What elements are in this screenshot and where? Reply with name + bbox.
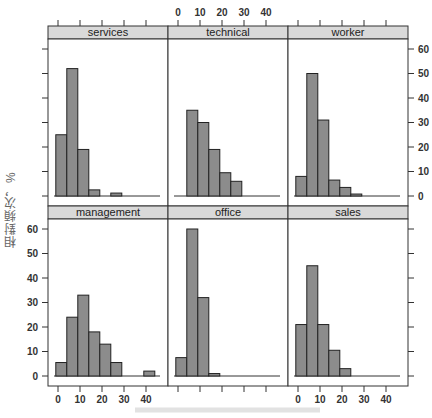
histogram-bar: [187, 229, 198, 376]
histogram-bar: [231, 181, 242, 196]
y-tick-label: 40: [27, 273, 39, 284]
y-tick-label: 50: [418, 68, 430, 79]
y-tick-label: 40: [418, 93, 430, 104]
x-tick-label: 20: [96, 394, 108, 405]
x-tick-label: 30: [358, 394, 370, 405]
x-tick-label: 10: [194, 7, 206, 18]
strip-label: technical: [206, 26, 249, 38]
lattice-histogram-chart: servicestechnicalworkermanagementoffices…: [0, 0, 432, 418]
x-tick-label: 0: [175, 7, 181, 18]
y-tick-label: 20: [27, 322, 39, 333]
histogram-bar: [307, 266, 318, 376]
y-tick-label: 20: [418, 142, 430, 153]
x-tick-label: 20: [336, 394, 348, 405]
histogram-bar: [296, 325, 307, 376]
x-tick-label: 40: [140, 394, 152, 405]
y-tick-label: 10: [27, 346, 39, 357]
x-tick-label: 30: [118, 394, 130, 405]
x-tick-label: 10: [74, 394, 86, 405]
strip-label: office: [215, 206, 241, 218]
histogram-bar: [296, 176, 307, 196]
y-tick-label: 50: [27, 248, 39, 259]
histogram-bar: [318, 120, 329, 196]
histogram-bar: [329, 350, 340, 376]
x-tick-label: 40: [260, 7, 272, 18]
histogram-bar: [89, 190, 100, 196]
histogram-bar: [56, 363, 67, 376]
histogram-bar: [340, 369, 351, 376]
histogram-bar: [198, 123, 209, 197]
histogram-bar: [220, 173, 231, 196]
y-tick-label: 60: [418, 44, 430, 55]
histogram-bar: [89, 332, 100, 376]
histogram-bar: [307, 74, 318, 197]
histogram-bar: [176, 358, 187, 376]
panel-office: office: [168, 206, 288, 386]
histogram-bar: [351, 194, 362, 196]
histogram-bar: [78, 295, 89, 376]
histogram-bar: [209, 374, 220, 376]
panel-services: services: [48, 26, 168, 206]
panel-worker: worker: [288, 26, 408, 206]
strip-label: management: [76, 206, 140, 218]
y-tick-label: 0: [32, 371, 38, 382]
y-tick-label: 30: [27, 297, 39, 308]
histogram-bar: [67, 317, 78, 376]
y-tick-label: 10: [418, 166, 430, 177]
panel-sales: sales: [288, 206, 408, 386]
y-tick-label: 30: [418, 117, 430, 128]
histogram-bar: [340, 187, 351, 196]
histogram-bar: [198, 298, 209, 376]
histogram-bar: [209, 149, 220, 196]
histogram-bar: [100, 344, 111, 376]
strip-label: services: [88, 26, 129, 38]
y-tick-label: 60: [27, 224, 39, 235]
histogram-bar: [318, 325, 329, 376]
histogram-bar: [67, 69, 78, 196]
x-tick-label: 0: [295, 394, 301, 405]
histogram-bar: [187, 110, 198, 196]
histogram-bar: [111, 363, 122, 376]
x-tick-label: 10: [314, 394, 326, 405]
x-tick-label: 0: [55, 394, 61, 405]
panel-technical: technical: [168, 26, 288, 206]
strip-label: worker: [330, 26, 364, 38]
strip-label: sales: [335, 206, 361, 218]
y-tick-label: 0: [418, 191, 424, 202]
x-tick-label: 40: [380, 394, 392, 405]
histogram-bar: [144, 371, 155, 376]
y-axis-label: 相對頻次，%: [2, 150, 22, 270]
x-tick-label: 20: [216, 7, 228, 18]
panel-management: management: [48, 206, 168, 386]
x-tick-label: 30: [238, 7, 250, 18]
histogram-bar: [329, 180, 340, 196]
histogram-bar: [56, 135, 67, 196]
histogram-bar: [78, 149, 89, 196]
histogram-bar: [111, 193, 122, 196]
